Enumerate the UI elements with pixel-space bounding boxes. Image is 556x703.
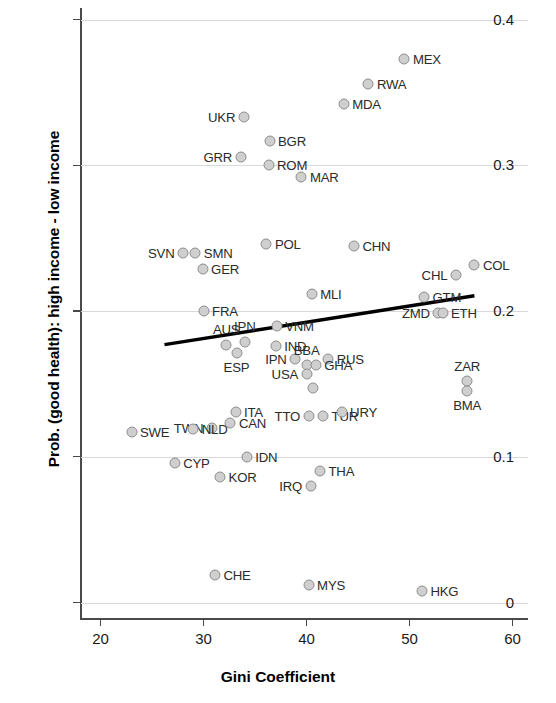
data-point-marker <box>241 451 252 462</box>
data-point-label: COL <box>483 257 510 272</box>
data-point-label: MLI <box>320 286 341 301</box>
data-point-label: RWA <box>377 76 406 91</box>
data-point-label: CHN <box>362 238 390 253</box>
data-point-marker <box>437 307 448 318</box>
data-point-label: ROM <box>277 158 307 173</box>
data-point-marker <box>271 320 282 331</box>
data-point-marker <box>399 54 410 65</box>
y-tick-mark <box>73 19 80 20</box>
data-point-marker <box>239 336 250 347</box>
data-point-label: GRR <box>203 149 232 164</box>
data-point-marker <box>315 466 326 477</box>
data-point-label: URY <box>350 404 377 419</box>
data-point-label: MDA <box>352 97 381 112</box>
data-point-marker <box>197 263 208 274</box>
data-point-marker <box>296 172 307 183</box>
data-point-label: MYS <box>317 578 345 593</box>
data-point-marker <box>416 585 427 596</box>
data-point-marker <box>336 406 347 417</box>
data-point-label: GHA <box>324 358 352 373</box>
data-point-marker <box>469 259 480 270</box>
data-point-label: IDN <box>255 449 277 464</box>
x-tick-label: 60 <box>504 630 521 647</box>
data-point-marker <box>126 427 137 438</box>
data-point-label: CAN <box>239 416 266 431</box>
data-point-marker <box>310 360 321 371</box>
data-point-label: TTO <box>275 409 301 424</box>
data-point-label: BGR <box>278 133 306 148</box>
data-point-marker <box>363 78 374 89</box>
data-point-label: GTM <box>433 289 462 304</box>
data-point-label: GER <box>211 261 239 276</box>
scatter-plot-figure: Prob. (good health): high income - low i… <box>0 0 556 703</box>
data-point-label: IRQ <box>279 478 302 493</box>
x-tick-label: 40 <box>298 630 315 647</box>
data-point-marker <box>303 580 314 591</box>
data-point-label: VNM <box>285 318 314 333</box>
data-point-marker <box>221 339 232 350</box>
data-point-marker <box>348 240 359 251</box>
data-point-label: ZAR <box>454 359 480 374</box>
data-point-label: SVN <box>148 245 175 260</box>
data-point-label: MAR <box>310 170 339 185</box>
x-tick-label: 50 <box>401 630 418 647</box>
y-tick-mark <box>73 165 80 166</box>
data-point-marker <box>338 99 349 110</box>
y-tick-mark <box>73 456 80 457</box>
y-axis-title: Prob. (good health): high income - low i… <box>45 19 63 579</box>
data-point-marker <box>303 411 314 422</box>
data-point-marker <box>198 306 209 317</box>
y-tick-mark <box>73 602 80 603</box>
data-point-marker <box>450 269 461 280</box>
data-point-marker <box>238 112 249 123</box>
data-point-marker <box>318 411 329 422</box>
data-point-marker <box>264 135 275 146</box>
data-point-marker <box>305 480 316 491</box>
data-point-marker <box>178 247 189 258</box>
data-point-marker <box>419 291 430 302</box>
data-point-label: KOR <box>229 470 257 485</box>
x-tick-label: 20 <box>92 630 109 647</box>
data-point-label: BMA <box>453 398 481 413</box>
x-tick-label: 30 <box>195 630 212 647</box>
data-point-label: ESP <box>224 360 250 375</box>
data-point-marker <box>261 239 272 250</box>
data-point-label: MEX <box>413 52 441 67</box>
x-axis-title: Gini Coefficient <box>0 668 556 686</box>
data-point-label: HKG <box>430 583 458 598</box>
y-tick-mark <box>73 310 80 311</box>
data-point-label: NLD <box>202 422 228 437</box>
data-point-label: UKR <box>208 110 235 125</box>
data-point-label: POL <box>275 237 301 252</box>
data-point-label: THA <box>329 464 355 479</box>
data-point-label: USA <box>272 366 299 381</box>
data-point-label: CHE <box>223 567 250 582</box>
data-point-label: SWE <box>140 425 169 440</box>
data-point-label: SMN <box>204 245 233 260</box>
data-point-label: CYP <box>183 455 210 470</box>
data-point-label: IPN <box>234 319 255 334</box>
data-point-marker <box>306 288 317 299</box>
data-point-marker <box>190 247 201 258</box>
plot-area: 00.10.20.30.4 2030405060 MEXRWAMDAUKRBGR… <box>80 8 528 620</box>
data-point-label: ETH <box>451 305 477 320</box>
data-point-marker <box>209 569 220 580</box>
data-point-label: FRA <box>212 304 238 319</box>
data-point-marker <box>169 457 180 468</box>
data-point-label: CHL <box>422 267 448 282</box>
data-point-marker <box>263 160 274 171</box>
data-point-marker <box>231 348 242 359</box>
data-point-marker <box>307 383 318 394</box>
data-point-marker <box>301 368 312 379</box>
data-point-label: IPN <box>265 352 286 367</box>
data-point-marker <box>270 341 281 352</box>
data-point-label: ZMD <box>402 305 430 320</box>
data-point-label: BBA <box>294 343 320 358</box>
data-point-marker <box>188 424 199 435</box>
data-point-marker <box>215 472 226 483</box>
data-point-marker <box>462 386 473 397</box>
data-point-marker <box>235 151 246 162</box>
